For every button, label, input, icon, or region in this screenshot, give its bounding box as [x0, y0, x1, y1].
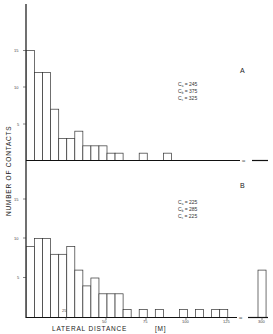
panel-b-xtick-125: 125: [223, 319, 230, 324]
panel-b-y-ticks: 15 10 5: [14, 197, 26, 281]
panel-b-xtick-100: 100: [182, 319, 189, 324]
panel-a-axis-break: ≈: [242, 158, 246, 164]
histogram-bar: [91, 146, 99, 161]
histogram-bar: [258, 270, 266, 317]
histogram-bar: [139, 153, 147, 160]
panel-a-ca: Ca = 245: [178, 81, 198, 88]
panel-b-xtick-300: 300: [258, 319, 265, 324]
histogram-bar: [123, 310, 131, 318]
panel-a-ytick-10: 10: [14, 85, 19, 90]
panel-a: [27, 51, 172, 161]
histogram-bar: [59, 139, 67, 161]
histogram-bar: [75, 270, 83, 317]
panel-a-ytick-15: 15: [14, 48, 19, 53]
histogram-bar: [220, 310, 228, 318]
panel-b: [27, 239, 267, 318]
histogram-bar: [27, 246, 35, 317]
histogram-bar: [27, 51, 35, 161]
panel-a-annotation: Ca = 245 Cb = 375 Cc = 325: [178, 81, 198, 102]
histogram-bar: [139, 310, 147, 318]
panel-b-ytick-10: 10: [14, 236, 19, 241]
histogram-bar: [51, 109, 59, 160]
histogram-bar: [155, 310, 163, 318]
histogram-bar: [163, 153, 171, 160]
histogram-bar: [83, 286, 91, 318]
panel-b-axis-break: ≈: [239, 315, 243, 321]
panel-b-annotation: Ca = 225 Cb = 285 Cc = 225: [178, 199, 198, 220]
panel-b-xtick-50: 50: [102, 319, 107, 324]
histogram-bar: [43, 73, 51, 161]
histogram-bar: [35, 239, 43, 318]
histogram-bar: [212, 310, 220, 318]
panel-b-label: B: [240, 182, 245, 189]
panel-b-ca: Ca = 225: [178, 199, 198, 206]
panel-b-ytick-15: 15: [14, 197, 19, 202]
histogram-bar: [179, 310, 187, 318]
histogram-bar: [83, 146, 91, 161]
panel-a-label: A: [240, 67, 245, 74]
histogram-bar: [107, 294, 115, 318]
panel-b-ytick-5: 5: [17, 275, 20, 280]
histogram-bar: [107, 153, 115, 160]
histogram-bar: [67, 139, 75, 161]
panel-b-cc: Cc = 225: [178, 213, 197, 220]
histogram-bar: [115, 153, 123, 160]
histogram-bar: [35, 73, 43, 161]
histogram-bar: [196, 310, 204, 318]
histogram-bar: [43, 239, 51, 318]
histogram-bar: [51, 254, 59, 317]
histogram-bar: [67, 246, 75, 317]
panel-b-xtick-75: 75: [143, 319, 148, 324]
panel-a-y-ticks: 15 10 5: [14, 48, 26, 127]
histogram-figure: ≈ 15 10 5 A Ca = 245 Cb = 375 Cc = 325 ≈…: [0, 0, 273, 334]
histogram-bar: [99, 294, 107, 318]
histogram-bar: [99, 146, 107, 161]
panel-b-cb: Cb = 285: [178, 206, 198, 213]
panel-a-ytick-5: 5: [17, 122, 20, 127]
panel-b-xtick-25: 25: [62, 308, 67, 313]
histogram-bar: [75, 131, 83, 160]
histogram-bar: [91, 278, 99, 318]
histogram-bar: [115, 294, 123, 318]
y-axis-label: NUMBER OF CONTACTS: [5, 126, 12, 216]
panel-a-cb: Cb = 375: [178, 88, 198, 95]
x-axis-label: LATERAL DISTANCE: [52, 325, 127, 332]
panel-a-cc: Cc = 325: [178, 95, 197, 102]
x-axis-unit: [M]: [155, 325, 166, 333]
